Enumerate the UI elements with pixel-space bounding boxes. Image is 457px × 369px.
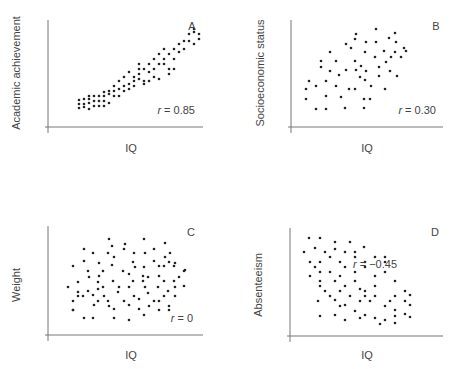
- data-point: [334, 314, 337, 317]
- data-point: [78, 103, 81, 106]
- data-point: [128, 273, 131, 276]
- data-point: [183, 285, 186, 288]
- data-point: [354, 38, 357, 41]
- panel-c-weight: Cr = 0IQWeight: [10, 226, 203, 361]
- data-point: [133, 252, 136, 255]
- data-point: [168, 68, 171, 71]
- data-point: [344, 285, 347, 288]
- data-point: [409, 294, 412, 297]
- data-point: [384, 319, 387, 322]
- data-point: [118, 286, 121, 289]
- data-point: [143, 238, 146, 241]
- data-point: [364, 79, 367, 82]
- data-point: [364, 290, 367, 293]
- data-point: [378, 75, 381, 78]
- data-point: [153, 76, 156, 79]
- scatter-plot-grid: Ar = 0.85IQAcademic achievement Br = 0.3…: [0, 0, 457, 369]
- data-point: [354, 60, 357, 63]
- correlation-annotation: r = 0.85: [157, 104, 195, 116]
- data-point: [374, 295, 377, 298]
- y-axis-label: Weight: [10, 268, 22, 302]
- data-point: [183, 48, 186, 51]
- data-point: [143, 314, 146, 317]
- data-point: [394, 322, 397, 325]
- data-point: [93, 100, 96, 103]
- data-point: [374, 275, 377, 278]
- data-point: [334, 248, 337, 251]
- data-point: [88, 276, 91, 279]
- data-point: [363, 246, 366, 249]
- data-point: [78, 107, 81, 110]
- data-point: [349, 295, 352, 298]
- data-point: [394, 32, 397, 35]
- data-point: [138, 73, 141, 76]
- data-point: [317, 300, 320, 303]
- data-point: [409, 316, 412, 319]
- data-point: [77, 295, 80, 298]
- panel-letter: A: [188, 20, 196, 32]
- panel-letter: D: [431, 226, 439, 238]
- data-point: [405, 50, 408, 53]
- data-point: [173, 48, 176, 51]
- data-point: [108, 305, 111, 308]
- data-point: [329, 271, 332, 274]
- data-point: [163, 58, 166, 61]
- data-point: [158, 265, 161, 268]
- data-point: [305, 98, 308, 101]
- data-point: [158, 63, 161, 66]
- data-point: [320, 66, 323, 69]
- data-point: [319, 271, 322, 274]
- data-point: [400, 56, 403, 59]
- data-point: [83, 248, 86, 251]
- data-point: [359, 288, 362, 291]
- data-point: [143, 266, 146, 269]
- data-point: [344, 304, 347, 307]
- y-axis-label: Absenteeism: [252, 253, 264, 317]
- data-point: [198, 38, 201, 41]
- data-point: [383, 50, 386, 53]
- data-point: [173, 58, 176, 61]
- data-point: [173, 68, 176, 71]
- data-point: [138, 308, 141, 311]
- data-point: [163, 63, 166, 66]
- data-point: [364, 295, 367, 298]
- data-point: [128, 304, 131, 307]
- y-axis-label: Academic achievement: [10, 16, 22, 130]
- data-point: [92, 317, 95, 320]
- data-point: [184, 269, 187, 272]
- data-point: [133, 80, 136, 83]
- data-point: [168, 53, 171, 56]
- data-point: [143, 83, 146, 86]
- data-point: [93, 105, 96, 108]
- data-point: [188, 33, 191, 36]
- data-point: [153, 260, 156, 263]
- data-point: [167, 290, 170, 293]
- data-point: [178, 276, 181, 279]
- data-point: [83, 98, 86, 101]
- data-point: [97, 281, 100, 284]
- data-point: [117, 291, 120, 294]
- correlation-annotation: r = 0: [171, 312, 193, 324]
- data-point: [375, 41, 378, 44]
- data-point: [77, 281, 80, 284]
- x-axis-label: IQ: [125, 349, 137, 361]
- data-point: [103, 105, 106, 108]
- data-point: [340, 96, 343, 99]
- data-point: [188, 40, 191, 43]
- data-point: [329, 256, 332, 259]
- data-point: [148, 63, 151, 66]
- data-point: [98, 262, 101, 265]
- data-point: [98, 275, 101, 278]
- data-point: [88, 98, 91, 101]
- data-point: [335, 85, 338, 88]
- panel-d-absenteeism: Dr = −0.45IQAbsenteeism: [252, 226, 443, 361]
- data-point: [325, 80, 328, 83]
- data-point: [359, 76, 362, 79]
- data-point: [128, 83, 131, 86]
- data-point: [385, 61, 388, 64]
- data-point: [334, 280, 337, 283]
- data-point: [102, 270, 105, 273]
- data-point: [158, 309, 161, 312]
- panel-b-socioeconomic-status: Br = 0.30IQSocioeconomic status: [254, 19, 443, 154]
- data-point: [153, 68, 156, 71]
